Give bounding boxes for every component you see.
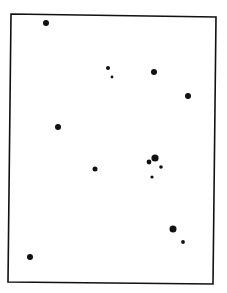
dot	[106, 66, 110, 70]
dot	[111, 76, 114, 79]
dot-group	[27, 20, 191, 260]
dot	[185, 93, 191, 99]
dot	[93, 167, 98, 172]
dot-figure	[0, 0, 227, 293]
dot	[151, 69, 157, 75]
dot	[170, 226, 177, 233]
dot	[43, 20, 49, 26]
dot	[55, 124, 61, 130]
dot	[159, 165, 163, 169]
dot	[150, 175, 153, 178]
dot	[181, 240, 185, 244]
dot	[147, 160, 152, 165]
dot	[151, 154, 158, 161]
frame-border	[8, 14, 216, 284]
dot	[27, 254, 33, 260]
